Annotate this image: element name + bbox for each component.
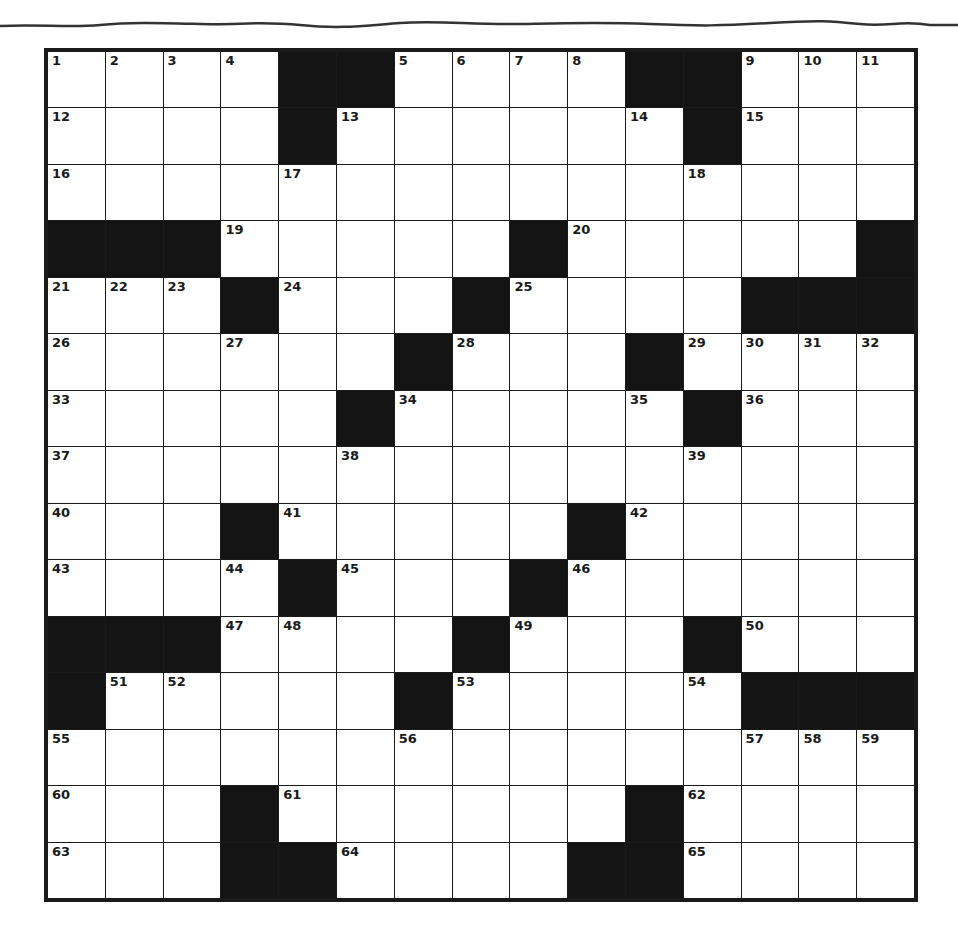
crossword-cell[interactable]: 38 bbox=[337, 447, 394, 502]
crossword-cell[interactable] bbox=[453, 504, 510, 559]
crossword-cell[interactable]: 47 bbox=[221, 617, 278, 672]
crossword-cell[interactable]: 54 bbox=[684, 673, 741, 728]
crossword-cell[interactable] bbox=[626, 447, 683, 502]
crossword-cell[interactable]: 51 bbox=[106, 673, 163, 728]
crossword-cell[interactable] bbox=[395, 447, 452, 502]
crossword-cell[interactable] bbox=[857, 617, 914, 672]
crossword-cell[interactable] bbox=[510, 391, 567, 446]
crossword-cell[interactable] bbox=[221, 730, 278, 785]
crossword-cell[interactable] bbox=[510, 673, 567, 728]
crossword-cell[interactable] bbox=[395, 560, 452, 615]
crossword-cell[interactable] bbox=[164, 391, 221, 446]
crossword-cell[interactable]: 58 bbox=[799, 730, 856, 785]
crossword-cell[interactable]: 12 bbox=[48, 108, 105, 163]
crossword-cell[interactable]: 10 bbox=[799, 52, 856, 107]
crossword-cell[interactable] bbox=[453, 165, 510, 220]
crossword-cell[interactable] bbox=[453, 108, 510, 163]
crossword-cell[interactable] bbox=[568, 447, 625, 502]
crossword-cell[interactable]: 24 bbox=[279, 278, 336, 333]
crossword-cell[interactable]: 7 bbox=[510, 52, 567, 107]
crossword-cell[interactable] bbox=[626, 673, 683, 728]
crossword-cell[interactable] bbox=[568, 165, 625, 220]
crossword-cell[interactable] bbox=[221, 447, 278, 502]
crossword-cell[interactable] bbox=[799, 786, 856, 841]
crossword-cell[interactable]: 31 bbox=[799, 334, 856, 389]
crossword-cell[interactable]: 33 bbox=[48, 391, 105, 446]
crossword-cell[interactable] bbox=[742, 221, 799, 276]
crossword-cell[interactable]: 32 bbox=[857, 334, 914, 389]
crossword-cell[interactable] bbox=[221, 391, 278, 446]
crossword-cell[interactable]: 18 bbox=[684, 165, 741, 220]
crossword-cell[interactable]: 28 bbox=[453, 334, 510, 389]
crossword-cell[interactable] bbox=[626, 165, 683, 220]
crossword-cell[interactable] bbox=[279, 221, 336, 276]
crossword-cell[interactable] bbox=[568, 673, 625, 728]
crossword-cell[interactable] bbox=[684, 221, 741, 276]
crossword-cell[interactable] bbox=[742, 165, 799, 220]
crossword-cell[interactable]: 30 bbox=[742, 334, 799, 389]
crossword-cell[interactable]: 48 bbox=[279, 617, 336, 672]
crossword-cell[interactable] bbox=[510, 504, 567, 559]
crossword-cell[interactable] bbox=[799, 391, 856, 446]
crossword-cell[interactable] bbox=[106, 786, 163, 841]
crossword-cell[interactable] bbox=[799, 108, 856, 163]
crossword-cell[interactable] bbox=[684, 278, 741, 333]
crossword-cell[interactable] bbox=[799, 221, 856, 276]
crossword-cell[interactable] bbox=[164, 730, 221, 785]
crossword-cell[interactable] bbox=[857, 447, 914, 502]
crossword-cell[interactable]: 41 bbox=[279, 504, 336, 559]
crossword-cell[interactable]: 29 bbox=[684, 334, 741, 389]
crossword-cell[interactable] bbox=[510, 730, 567, 785]
crossword-cell[interactable]: 53 bbox=[453, 673, 510, 728]
crossword-cell[interactable] bbox=[164, 843, 221, 898]
crossword-cell[interactable] bbox=[510, 447, 567, 502]
crossword-cell[interactable] bbox=[568, 730, 625, 785]
crossword-cell[interactable] bbox=[857, 843, 914, 898]
crossword-cell[interactable]: 9 bbox=[742, 52, 799, 107]
crossword-cell[interactable] bbox=[106, 391, 163, 446]
crossword-cell[interactable] bbox=[337, 221, 394, 276]
crossword-cell[interactable] bbox=[510, 843, 567, 898]
crossword-cell[interactable] bbox=[510, 165, 567, 220]
crossword-cell[interactable]: 22 bbox=[106, 278, 163, 333]
crossword-cell[interactable] bbox=[626, 730, 683, 785]
crossword-cell[interactable] bbox=[568, 108, 625, 163]
crossword-cell[interactable]: 36 bbox=[742, 391, 799, 446]
crossword-cell[interactable] bbox=[510, 334, 567, 389]
crossword-cell[interactable]: 43 bbox=[48, 560, 105, 615]
crossword-cell[interactable] bbox=[799, 843, 856, 898]
crossword-cell[interactable] bbox=[164, 334, 221, 389]
crossword-cell[interactable] bbox=[337, 334, 394, 389]
crossword-cell[interactable] bbox=[453, 843, 510, 898]
crossword-cell[interactable]: 20 bbox=[568, 221, 625, 276]
crossword-cell[interactable] bbox=[395, 504, 452, 559]
crossword-cell[interactable] bbox=[742, 560, 799, 615]
crossword-cell[interactable] bbox=[626, 560, 683, 615]
crossword-cell[interactable] bbox=[337, 504, 394, 559]
crossword-cell[interactable]: 8 bbox=[568, 52, 625, 107]
crossword-cell[interactable] bbox=[742, 504, 799, 559]
crossword-cell[interactable] bbox=[164, 165, 221, 220]
crossword-cell[interactable] bbox=[164, 560, 221, 615]
crossword-cell[interactable]: 61 bbox=[279, 786, 336, 841]
crossword-cell[interactable]: 27 bbox=[221, 334, 278, 389]
crossword-cell[interactable]: 50 bbox=[742, 617, 799, 672]
crossword-cell[interactable] bbox=[857, 391, 914, 446]
crossword-cell[interactable] bbox=[279, 447, 336, 502]
crossword-cell[interactable] bbox=[453, 560, 510, 615]
crossword-cell[interactable] bbox=[453, 730, 510, 785]
crossword-cell[interactable]: 2 bbox=[106, 52, 163, 107]
crossword-cell[interactable] bbox=[626, 617, 683, 672]
crossword-cell[interactable]: 21 bbox=[48, 278, 105, 333]
crossword-cell[interactable]: 55 bbox=[48, 730, 105, 785]
crossword-cell[interactable]: 16 bbox=[48, 165, 105, 220]
crossword-cell[interactable]: 46 bbox=[568, 560, 625, 615]
crossword-cell[interactable] bbox=[395, 221, 452, 276]
crossword-cell[interactable] bbox=[279, 673, 336, 728]
crossword-cell[interactable] bbox=[337, 278, 394, 333]
crossword-cell[interactable] bbox=[279, 391, 336, 446]
crossword-cell[interactable] bbox=[395, 278, 452, 333]
crossword-cell[interactable] bbox=[568, 278, 625, 333]
crossword-cell[interactable] bbox=[799, 447, 856, 502]
crossword-cell[interactable]: 4 bbox=[221, 52, 278, 107]
